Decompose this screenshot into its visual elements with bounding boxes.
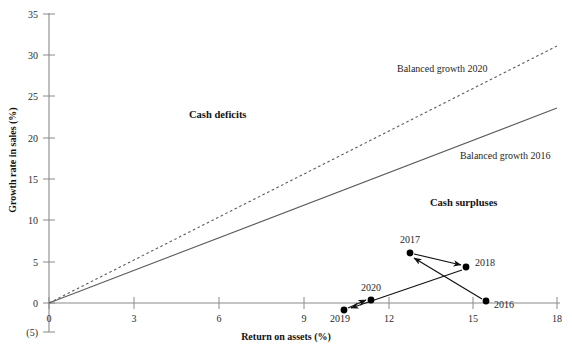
y-tick-label-0: 0 [33,298,38,309]
y-tick-label-35: 35 [28,9,38,20]
data-point-label-2020: 2020 [361,282,381,293]
x-tick-label-12: 12 [384,313,394,324]
axes-group [49,13,560,332]
data-point-2018[interactable] [463,264,470,271]
y-axis-title: Growth rate in sales (%) [7,107,19,212]
data-point-label-2016: 2016 [494,299,514,310]
data-point-2020[interactable] [368,297,375,304]
data-point-2016[interactable] [483,298,490,305]
data-point-label-2019: 2019 [330,313,350,324]
y-tick-label-minus5: (5) [26,327,38,339]
y-tick-label-25: 25 [28,91,38,102]
y-axis-ticks: 35 30 25 20 15 10 5 0 (5) [26,9,55,339]
x-tick-label-9: 9 [302,313,307,324]
x-tick-label-3: 3 [132,313,137,324]
arrow-2016-to-2017 [414,258,482,299]
data-point-label-2017: 2017 [400,234,420,245]
cash-deficits-label: Cash deficits [189,109,246,120]
x-tick-label-6: 6 [217,313,222,324]
y-tick-label-15: 15 [28,174,38,185]
balanced-growth-2016-label: Balanced growth 2016 [460,150,551,161]
x-tick-label-18: 18 [552,313,562,324]
x-tick-label-0: 0 [47,313,52,324]
scatter-chart: 35 30 25 20 15 10 5 0 (5) 0 3 6 9 12 15 … [0,0,572,344]
data-point-label-2018: 2018 [475,257,495,268]
balanced-growth-2020-label: Balanced growth 2020 [397,63,488,74]
chart-canvas: 35 30 25 20 15 10 5 0 (5) 0 3 6 9 12 15 … [0,0,572,344]
y-tick-label-30: 30 [28,50,38,61]
cash-surpluses-label: Cash surpluses [430,197,497,208]
y-tick-label-10: 10 [28,215,38,226]
arrow-2017-to-2018 [414,254,461,265]
y-tick-label-5: 5 [33,257,38,268]
y-tick-label-20: 20 [28,133,38,144]
x-axis-title: Return on assets (%) [241,331,331,343]
x-tick-label-15: 15 [468,313,478,324]
data-point-2017[interactable] [407,250,414,257]
data-point-labels-group: 2016 2017 2018 2019 2020 [330,234,514,324]
